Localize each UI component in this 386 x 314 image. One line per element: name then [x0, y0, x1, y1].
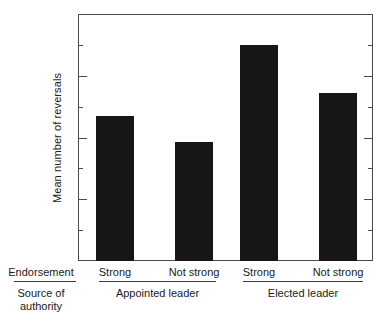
y-axis-tick: [78, 45, 83, 46]
y-axis-tick-right: [364, 14, 373, 15]
y-axis-tick: [78, 199, 87, 200]
y-axis-tick: [78, 76, 87, 77]
endorsement-row-header: Endorsement: [8, 266, 74, 279]
y-axis-tick-right: [368, 168, 373, 169]
elected-group-rule: [243, 281, 363, 282]
source-of-authority-row-header: Source ofauthority: [8, 287, 74, 312]
source-group-label: Elected leader: [243, 287, 363, 299]
source-header-line-1: Source of: [8, 287, 74, 300]
y-axis-tick: [78, 107, 83, 108]
bar: [175, 142, 213, 261]
y-axis-tick-right: [364, 199, 373, 200]
plot-area: 4321: [78, 14, 373, 261]
source-header-line-2: authority: [8, 300, 74, 313]
y-axis-title: Mean number of reversals: [51, 28, 63, 248]
bar: [319, 93, 357, 261]
y-axis-tick: [78, 138, 87, 139]
y-axis-tick: [78, 168, 83, 169]
bar-chart-figure: Mean number of reversals 4321 StrongNot …: [0, 0, 386, 314]
y-axis-tick-right: [368, 230, 373, 231]
y-axis-tick-right: [368, 107, 373, 108]
appointed-group-rule: [99, 281, 216, 282]
bar: [240, 45, 278, 261]
endorsement-category-label: Not strong: [278, 266, 386, 278]
y-axis-tick-right: [368, 45, 373, 46]
bar: [96, 116, 134, 261]
endorsement-rule: [14, 281, 76, 282]
y-axis-tick-right: [364, 138, 373, 139]
source-group-label: Appointed leader: [99, 287, 216, 299]
y-axis-tick-right: [364, 76, 373, 77]
y-axis-tick: [78, 14, 87, 15]
y-axis-tick: [78, 230, 83, 231]
